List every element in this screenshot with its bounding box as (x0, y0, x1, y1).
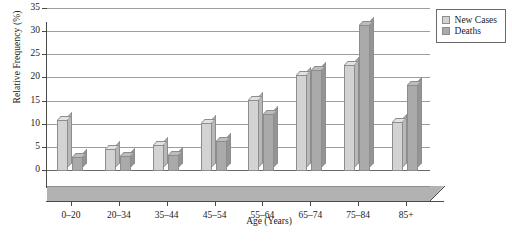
bar-face (120, 156, 131, 171)
bar-face (168, 155, 179, 171)
x-axis-tick (358, 201, 359, 206)
chart-floor (47, 186, 430, 202)
bar-group (47, 9, 95, 171)
bar-group (239, 9, 287, 171)
legend-item: New Cases (442, 16, 497, 26)
x-axis-depth-edge (430, 186, 446, 202)
bar-side (131, 148, 135, 167)
bar-group (95, 9, 143, 171)
bar-face (201, 123, 212, 171)
legend: New CasesDeaths (436, 9, 506, 43)
y-axis-tick-label: 15 (31, 96, 41, 106)
x-axis-tick (262, 201, 263, 206)
y-axis-tick-label: 25 (31, 50, 41, 60)
x-axis-tick (215, 201, 216, 206)
y-axis-tick-label: 20 (31, 73, 41, 83)
bar-face (153, 145, 164, 171)
bar-new-cases (105, 149, 116, 171)
bar-side (83, 149, 87, 167)
bar-side (370, 17, 374, 167)
y-axis-tick-label: 0 (35, 165, 40, 175)
bar-new-cases (248, 100, 259, 171)
legend-item: Deaths (442, 27, 497, 37)
x-axis-tick (119, 201, 120, 206)
bar-deaths (168, 155, 179, 171)
bar-new-cases (57, 120, 68, 171)
bar-new-cases (344, 65, 355, 171)
bar-group (334, 9, 382, 171)
bar-deaths (72, 157, 83, 171)
y-axis-title: Relative Frequency (%) (12, 0, 22, 132)
bar-face (248, 100, 259, 171)
legend-label: New Cases (455, 16, 497, 26)
bar-group (382, 9, 430, 171)
bar-face (263, 114, 274, 171)
bar-side (322, 62, 326, 167)
bar-side (418, 77, 422, 167)
bar-deaths (216, 141, 227, 171)
bar-side (274, 106, 278, 167)
bar-face (311, 70, 322, 171)
plot-area: 05101520253035 0–2020–3435–4445–5455–646… (47, 24, 430, 186)
bar-face (344, 65, 355, 171)
bar-face (296, 75, 307, 171)
axis-corner-icon (430, 186, 446, 202)
bar-deaths (120, 156, 131, 171)
bar-deaths (311, 70, 322, 171)
x-axis-line (46, 201, 444, 202)
legend-label: Deaths (455, 27, 481, 37)
y-axis-tick-label: 35 (31, 3, 41, 13)
bar-chart: Relative Frequency (%) 05101520253035 0–… (0, 0, 512, 241)
legend-swatch-cases (442, 16, 450, 24)
bar-group (286, 9, 334, 171)
bar-group (143, 9, 191, 171)
x-axis-title: Age (Years) (0, 216, 512, 226)
bar-face (216, 141, 227, 171)
bar-face (57, 120, 68, 171)
bar-face (105, 149, 116, 171)
bar-new-cases (201, 123, 212, 171)
bar-face (72, 157, 83, 171)
x-axis-tick (310, 201, 311, 206)
bar-new-cases (392, 122, 403, 171)
bar-deaths (359, 25, 370, 171)
bar-deaths (263, 114, 274, 171)
x-axis-tick (71, 201, 72, 206)
bar-face (392, 122, 403, 171)
bar-face (407, 85, 418, 171)
y-axis-tick-label: 5 (35, 142, 40, 152)
bar-deaths (407, 85, 418, 171)
bar-new-cases (153, 145, 164, 171)
legend-swatch-deaths (442, 27, 450, 35)
x-axis-tick (167, 201, 168, 206)
bar-face (359, 25, 370, 171)
x-axis-tick (406, 201, 407, 206)
y-axis-tick-label: 30 (31, 26, 41, 36)
bar-group (191, 9, 239, 171)
y-axis-tick-label: 10 (31, 119, 41, 129)
bar-new-cases (296, 75, 307, 171)
